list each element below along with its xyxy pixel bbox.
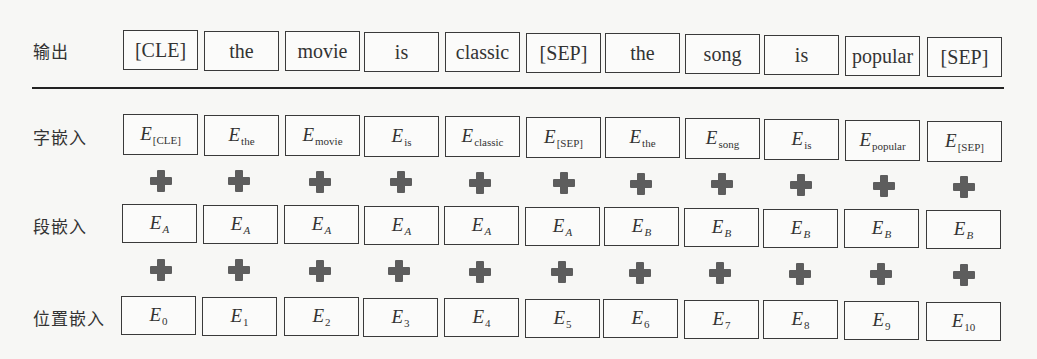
output-token-box: the: [605, 33, 680, 73]
embedding-subscript: song: [718, 138, 739, 150]
embedding-subscript: A: [565, 226, 572, 238]
output-token-box: song: [685, 34, 760, 74]
embedding-symbol: E: [872, 309, 884, 330]
embedding-symbol: E: [706, 127, 718, 148]
embedding-subscript: 7: [725, 319, 731, 331]
plus-icon: [790, 174, 812, 196]
plus-icon: [789, 263, 811, 285]
position-embedding-row-label: 位置嵌入: [33, 305, 105, 330]
token-embedding-box: Ethe: [204, 115, 279, 156]
position-embedding-box: E8: [763, 300, 838, 339]
plus-icon: [390, 171, 412, 193]
embedding-subscript: 4: [485, 317, 491, 329]
segment-embedding-box: EA: [525, 207, 600, 246]
output-token-text: movie: [298, 40, 348, 63]
embedding-symbol: E: [945, 130, 957, 151]
token-embedding-box: Epopular: [845, 120, 920, 161]
token-embedding-box: Ethe: [605, 117, 680, 158]
segment-embedding-box: EB: [763, 209, 838, 248]
embedding-subscript: 1: [243, 316, 249, 328]
plus-icon: [228, 170, 250, 192]
embedding-subscript: B: [803, 228, 810, 240]
embedding-subscript: A: [243, 224, 250, 236]
output-token-text: the: [229, 40, 253, 63]
embedding-subscript: A: [324, 224, 331, 236]
embedding-symbol: E: [140, 123, 152, 144]
token-embedding-box: Esong: [685, 118, 760, 159]
segment-embedding-box: EA: [284, 205, 359, 244]
output-token-box: popular: [845, 36, 920, 76]
segment-embedding-box: EA: [203, 205, 278, 244]
embedding-symbol: E: [952, 310, 964, 331]
segment-embedding-box: EA: [444, 206, 519, 245]
embedding-symbol: E: [231, 213, 243, 234]
embedding-subscript: is: [404, 136, 411, 148]
position-embedding-box: E5: [525, 299, 600, 338]
plus-icon: [873, 175, 895, 197]
embedding-symbol: E: [954, 218, 966, 239]
plus-icon: [309, 260, 331, 282]
segment-embedding-box: EA: [364, 206, 439, 245]
position-embedding-box: E2: [284, 297, 359, 336]
embedding-symbol: E: [312, 305, 324, 326]
plus-icon: [953, 176, 975, 198]
plus-icon: [309, 171, 331, 193]
output-token-box: [SEP]: [526, 33, 601, 73]
embedding-subscript: A: [404, 225, 411, 237]
embedding-subscript: [SEP]: [557, 137, 583, 149]
embedding-subscript: popular: [872, 140, 906, 152]
embedding-symbol: E: [302, 124, 314, 145]
position-embedding-box: E0: [121, 296, 196, 335]
embedding-symbol: E: [553, 307, 565, 328]
token-embedding-box: E[CLE]: [123, 114, 198, 155]
embedding-symbol: E: [392, 214, 404, 235]
divider-line: [32, 87, 1004, 89]
embedding-subscript: B: [724, 227, 731, 239]
output-token-box: classic: [445, 32, 520, 72]
embedding-symbol: E: [472, 306, 484, 327]
embedding-symbol: E: [462, 125, 474, 146]
embedding-subscript: [CLE]: [153, 134, 181, 146]
segment-embedding-box: EB: [926, 210, 1001, 249]
output-token-text: is: [395, 41, 408, 64]
output-token-box: the: [204, 31, 279, 71]
embedding-subscript: A: [162, 223, 169, 235]
embedding-subscript: B: [884, 228, 891, 240]
embedding-symbol: E: [149, 304, 161, 325]
output-token-text: [SEP]: [941, 46, 989, 69]
position-embedding-box: E4: [444, 298, 519, 337]
embedding-symbol: E: [629, 126, 641, 147]
position-embedding-box: E7: [684, 300, 759, 339]
plus-icon: [469, 261, 491, 283]
token-embedding-box: E[SEP]: [927, 121, 1002, 162]
embedding-subscript: 5: [566, 318, 572, 330]
token-embedding-box: Emovie: [285, 115, 360, 156]
embedding-subscript: classic: [474, 136, 503, 148]
token-embedding-box: Eis: [364, 116, 439, 157]
embedding-subscript: 6: [644, 318, 650, 330]
embedding-symbol: E: [544, 126, 556, 147]
plus-icon: [870, 263, 892, 285]
embedding-symbol: E: [712, 308, 724, 329]
embedding-subscript: the: [642, 137, 655, 149]
embedding-subscript: B: [966, 229, 973, 241]
embedding-subscript: movie: [315, 135, 343, 147]
embedding-symbol: E: [472, 214, 484, 235]
output-token-box: is: [364, 32, 439, 72]
embedding-symbol: E: [791, 308, 803, 329]
output-token-box: [SEP]: [927, 37, 1002, 77]
output-token-text: classic: [456, 41, 509, 64]
token-embedding-box: Eis: [764, 119, 839, 160]
token-embedding-box: Eclassic: [445, 116, 520, 157]
segment-embedding-box: EA: [122, 204, 197, 243]
embedding-symbol: E: [553, 215, 565, 236]
output-token-box: is: [764, 35, 839, 75]
plus-icon: [629, 262, 651, 284]
embedding-symbol: E: [312, 213, 324, 234]
output-token-text: [CLE]: [135, 39, 186, 62]
plus-icon: [953, 264, 975, 286]
plus-icon: [711, 173, 733, 195]
embedding-subscript: 2: [325, 316, 331, 328]
embedding-symbol: E: [859, 129, 871, 150]
segment-embedding-box: EB: [604, 207, 679, 246]
